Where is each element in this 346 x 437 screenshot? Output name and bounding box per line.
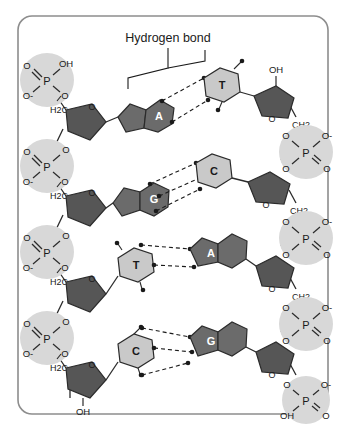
sugar-ring-oxygen-label: O [268, 370, 275, 380]
phosphate-oxygen-ur: O- [322, 216, 333, 227]
phosphate-oxygen-ll: O- [23, 262, 34, 273]
hydrogen-bond-label: Hydrogen bond [125, 31, 211, 45]
phosphate-oxygen-ll: O [282, 163, 289, 174]
dna-structure-figure: P O OH O- O H2C O A [0, 0, 346, 437]
sugar-ring-oxygen-label: O [268, 114, 275, 124]
phosphate-oxygen-ur: O- [322, 130, 333, 141]
sugar-ring-oxygen-label: O [262, 200, 269, 210]
phosphate-oxygen-ur: O [62, 316, 69, 327]
phosphorus-label: P [302, 233, 309, 245]
sugar-ring-oxygen-label: O [88, 188, 95, 198]
phosphate-group-right-4: P O O- OH O [280, 376, 331, 424]
phosphate-oxygen-ll: O [282, 249, 289, 260]
phosphate-oxygen-ur: O [62, 230, 69, 241]
phosphate-oxygen-ll: O- [23, 348, 34, 359]
base-letter: T [219, 79, 226, 91]
base-letter: A [207, 247, 215, 259]
phosphate-hydroxyl-ur: OH [59, 58, 73, 69]
phosphorus-label: P [43, 333, 50, 345]
phosphate-oxygen-lr: O [61, 348, 68, 359]
phosphate-group-left-4: P O O O- O [20, 311, 74, 365]
phosphate-group-left-3: P O O O- O [20, 225, 74, 279]
base-letter: G [207, 335, 216, 347]
phosphorus-label: P [302, 319, 309, 331]
phosphate-oxygen-lr: O [323, 335, 330, 346]
phosphate-oxygen-ul: O [23, 146, 30, 157]
base-letter: T [133, 259, 140, 271]
phosphate-oxygen-ll: O- [23, 90, 34, 101]
sugar-ring-oxygen-label: O [88, 360, 95, 370]
phosphate-oxygen-ul: O [23, 318, 30, 329]
phosphate-group-left-1: P O OH O- O [20, 53, 74, 107]
base-letter: C [132, 345, 140, 357]
phosphate-oxygen-ur: O- [322, 302, 333, 313]
phosphate-oxygen-ul: O [23, 60, 30, 71]
base-letter: A [155, 110, 163, 122]
phosphate-oxygen-ul: O [282, 130, 289, 141]
base-letter: C [210, 165, 218, 177]
phosphate-oxygen-ul: O [282, 302, 289, 313]
phosphate-oxygen-ur: O- [321, 379, 332, 390]
terminal-hydroxyl-left: OH [76, 406, 90, 417]
phosphate-oxygen-ul: O [23, 232, 30, 243]
phosphate-oxygen-lr: O [61, 90, 68, 101]
phosphate-oxygen-ur: O [62, 144, 69, 155]
phosphate-group-right-3: P O O- O O [279, 297, 333, 351]
phosphate-oxygen-lr: O [323, 249, 330, 260]
phosphate-oxygen-lr: O [61, 176, 68, 187]
sugar-ring-oxygen-label: O [88, 274, 95, 284]
terminal-hydroxyl-right: OH [269, 64, 283, 75]
phosphate-oxygen-ll: O- [23, 176, 34, 187]
phosphorus-label: P [43, 161, 50, 173]
sugar-ring-oxygen-label: O [88, 102, 95, 112]
phosphate-group-right-1: P O O- O O [279, 125, 333, 179]
phosphate-oxygen-lr: O [322, 410, 329, 421]
phosphorus-label: P [43, 247, 50, 259]
base-letter: G [150, 193, 159, 205]
phosphate-group-right-2: P O O- O O [279, 211, 333, 265]
phosphate-oxygen-lr: O [61, 262, 68, 273]
phosphate-oxygen-lr: O [323, 163, 330, 174]
phosphorus-label: P [43, 75, 50, 87]
phosphate-group-left-2: P O O O- O [20, 139, 74, 193]
sugar-ring-oxygen-label: O [268, 284, 275, 294]
phosphate-oxygen-ul: O [282, 216, 289, 227]
phosphate-hydroxyl-ll: OH [280, 410, 294, 421]
phosphate-oxygen-ll: O [282, 335, 289, 346]
phosphorus-label: P [302, 147, 309, 159]
phosphate-oxygen-ul: O [283, 379, 290, 390]
phosphorus-label: P [302, 395, 309, 407]
